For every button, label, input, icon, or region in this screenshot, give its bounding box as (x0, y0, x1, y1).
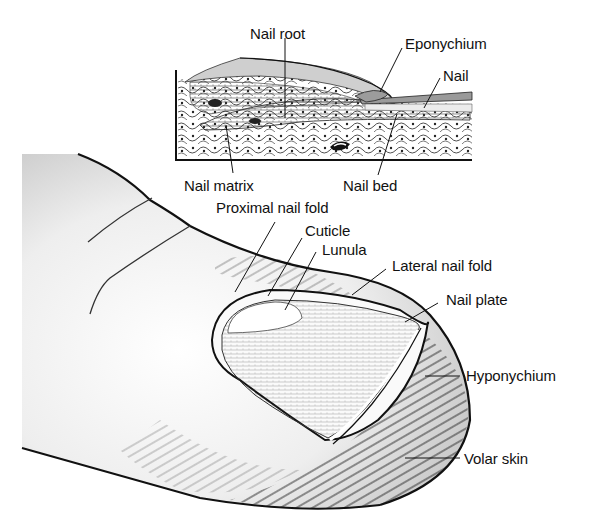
label-proximal-nail-fold: Proximal nail fold (216, 200, 328, 215)
label-nail: Nail (443, 68, 468, 83)
label-volar-skin: Volar skin (464, 451, 528, 466)
label-eponychium: Eponychium (405, 36, 487, 51)
label-nail-bed: Nail bed (343, 178, 397, 193)
label-lateral-nail-fold: Lateral nail fold (392, 258, 492, 273)
nail-anatomy-diagram: Nail root Eponychium Nail Nail matrix Na… (0, 0, 597, 526)
label-nail-root: Nail root (250, 26, 305, 41)
label-cuticle: Cuticle (305, 223, 350, 238)
label-lunula: Lunula (322, 242, 366, 257)
label-nail-plate: Nail plate (446, 292, 508, 307)
diagram-artwork (0, 0, 597, 526)
label-hyponychium: Hyponychium (466, 368, 556, 383)
cross-section-inset (176, 38, 472, 175)
label-nail-matrix: Nail matrix (184, 178, 254, 193)
